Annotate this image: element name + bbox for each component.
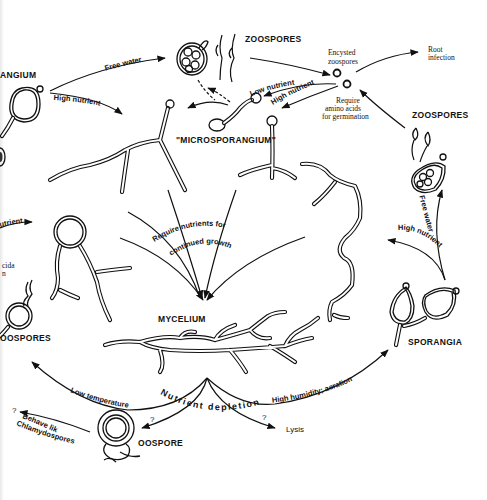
mycelium-network — [105, 312, 318, 372]
label-oospores-left: OOSPORES — [0, 333, 51, 343]
label-low-temperature: Low temperature — [69, 385, 129, 409]
label-encysted: Encysted — [328, 48, 356, 57]
label-high-nutrient-right: High nutrient — [398, 223, 445, 250]
oospore-bottom — [98, 410, 140, 462]
label-question-1: ? — [12, 406, 17, 415]
labels: ZOOSPORES ANGIUM "MICROSPORANGIUM" Encys… — [0, 0, 469, 448]
arrow-zoospores-to-encysted — [250, 58, 330, 75]
germinating-sporangium-left — [52, 216, 130, 320]
label-question-2: ? — [150, 415, 155, 424]
label-for-germination: for germination — [322, 112, 369, 121]
label-nutrient-depletion: Nutrient depletion — [159, 387, 261, 412]
microsporangium — [209, 93, 261, 131]
arrow-free-water-top — [50, 58, 165, 91]
label-zoospores-right: ZOOSPORES — [412, 110, 469, 120]
arrow-zoospores-right-to-encysted — [360, 90, 405, 128]
label-oospore: OOSPORE — [138, 438, 183, 448]
label-question-3: ? — [262, 413, 267, 422]
zoosporangium-right — [412, 128, 446, 193]
label-encysted-2: zoospores — [328, 57, 358, 66]
label-left-cut-2: n — [2, 269, 6, 278]
arrow-micro-to-left — [188, 102, 228, 108]
encysted-zoospores — [334, 70, 351, 88]
label-sporangium-left: ANGIUM — [0, 70, 36, 80]
label-sporangia: SPORANGIA — [408, 337, 462, 347]
arrow-dashed-micro-to-zoo — [208, 88, 230, 102]
label-infection: infection — [428, 53, 455, 62]
sporangium-left — [2, 86, 43, 136]
branching-hypha-top — [50, 100, 185, 192]
label-free-water-top: Free water — [104, 55, 143, 73]
label-mycelium: MYCELIUM — [158, 314, 206, 324]
germinating-hypha-right — [302, 164, 360, 320]
left-cut-cell — [0, 148, 5, 166]
label-high-humidity: High humidity; aeration — [271, 374, 354, 405]
label-behave-like: Behave like — [0, 0, 60, 435]
zoosporangium-top — [177, 34, 235, 82]
arrow-root-infection — [356, 52, 418, 72]
label-nutrient-left: utrient — [0, 216, 24, 229]
oospores-left — [0, 280, 32, 336]
sporangia-right — [390, 283, 459, 345]
label-high-nutrient-top: High nutrient — [53, 93, 101, 108]
germinating-zoospore — [240, 116, 295, 178]
label-microsporangium: "MICROSPORANGIUM" — [176, 135, 276, 145]
label-zoospores-top: ZOOSPORES — [245, 34, 302, 44]
life-cycle-diagram: ZOOSPORES ANGIUM "MICROSPORANGIUM" Encys… — [0, 0, 487, 500]
label-lysis: Lysis — [286, 425, 304, 434]
